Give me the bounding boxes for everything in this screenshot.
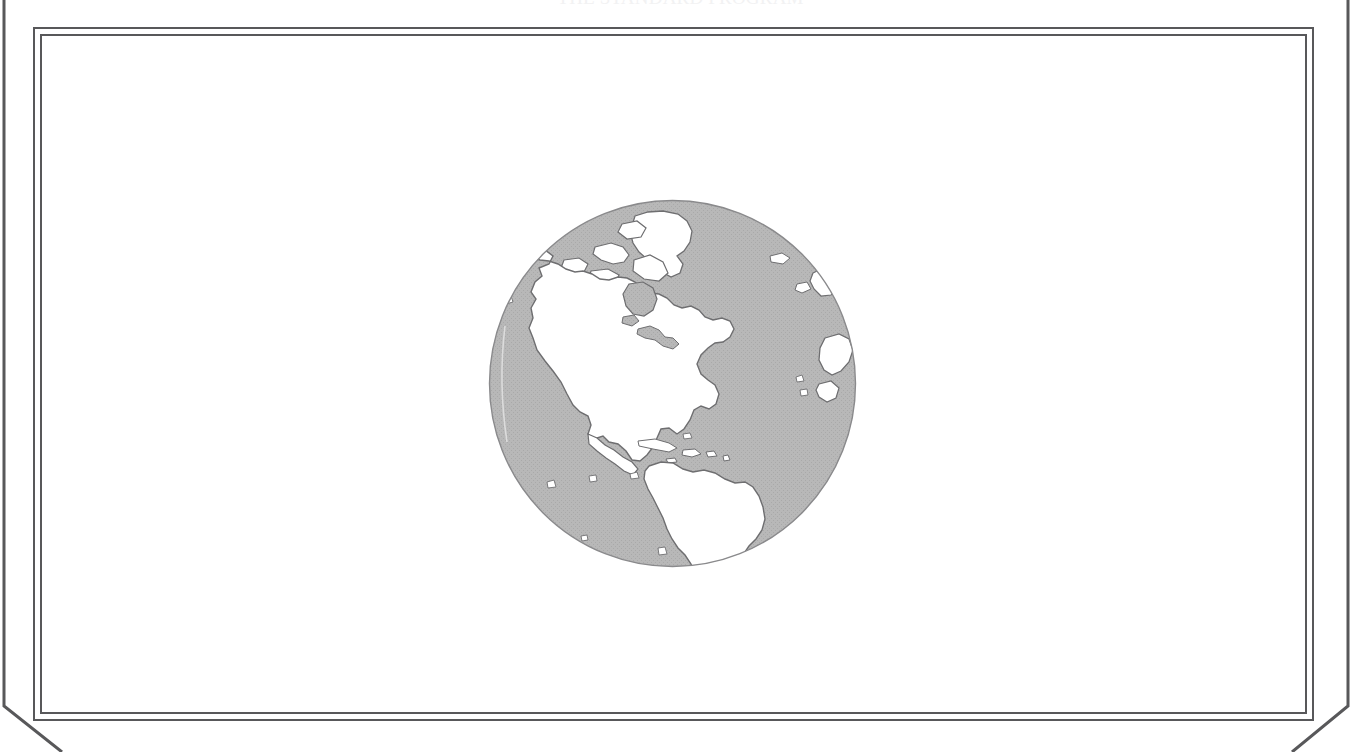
land-island-mark-c: [800, 389, 808, 396]
land-island-mark-e: [547, 480, 556, 488]
land-island-mark-g: [658, 547, 667, 555]
page-root: THE STANDARD PROGRAM: [0, 0, 1361, 752]
land-bahamas: [683, 433, 692, 439]
top-caption: THE STANDARD PROGRAM: [0, 0, 1361, 9]
globe-svg: [487, 198, 858, 569]
globe-illustration: [487, 198, 858, 569]
land-island-mark-f: [589, 475, 597, 482]
land-island-mark-h: [581, 535, 588, 541]
